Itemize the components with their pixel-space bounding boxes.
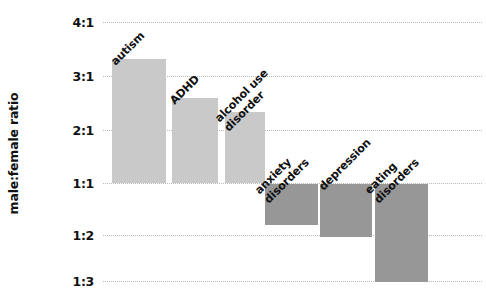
bar-depression[interactable]: [320, 184, 372, 237]
sex-ratio-bar-chart: male:female ratio 4:13:12:11:11:21:3 aut…: [0, 0, 486, 307]
bar-adhd[interactable]: [172, 98, 218, 183]
plot-area: autismADHDalcohol use disorderanxiety di…: [0, 0, 486, 307]
bar-autism[interactable]: [112, 59, 166, 183]
